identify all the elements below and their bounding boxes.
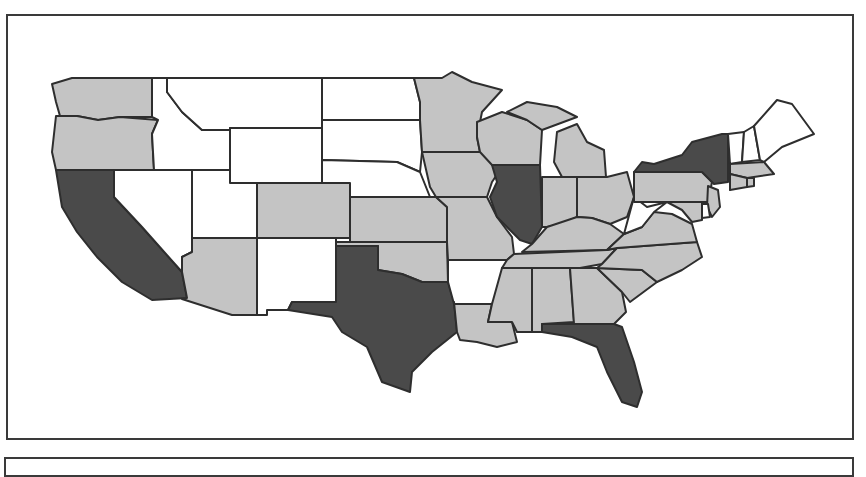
state-pennsylvania[interactable] (634, 172, 712, 202)
map-panel (6, 14, 854, 440)
state-north-dakota[interactable] (322, 78, 420, 120)
state-delaware[interactable] (702, 204, 710, 218)
us-choropleth-map (8, 16, 856, 442)
state-ohio[interactable] (577, 172, 634, 224)
state-maine[interactable] (754, 100, 814, 162)
state-kansas[interactable] (350, 197, 447, 242)
state-florida[interactable] (542, 324, 642, 407)
state-colorado[interactable] (257, 183, 350, 238)
state-wyoming[interactable] (230, 128, 322, 183)
state-alabama[interactable] (532, 268, 574, 332)
state-arizona[interactable] (182, 238, 257, 315)
lower-panel (4, 457, 854, 477)
state-rhode-island[interactable] (747, 178, 754, 187)
state-oregon[interactable] (52, 116, 158, 170)
state-connecticut[interactable] (730, 174, 747, 190)
state-washington[interactable] (52, 78, 152, 120)
